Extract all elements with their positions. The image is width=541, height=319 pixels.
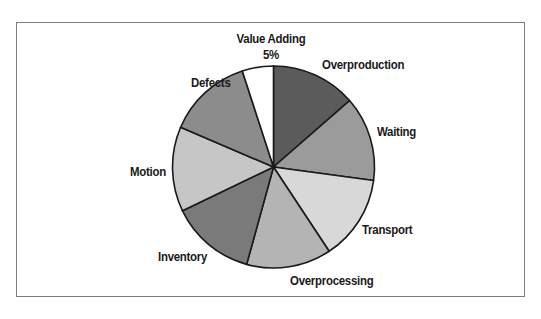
label-motion: Motion bbox=[130, 164, 166, 179]
pie-slices bbox=[173, 66, 375, 268]
label-inventory: Inventory bbox=[158, 249, 207, 264]
label-overproduction: Overproduction bbox=[322, 57, 404, 72]
label-value-adding-percent: 5% bbox=[227, 47, 315, 62]
label-defects: Defects bbox=[191, 75, 230, 90]
label-transport: Transport bbox=[362, 222, 412, 237]
label-value-adding: Value Adding 5% bbox=[227, 31, 315, 62]
label-waiting: Waiting bbox=[377, 124, 416, 139]
label-overprocessing: Overprocessing bbox=[290, 273, 373, 288]
label-value-adding-name: Value Adding bbox=[227, 31, 315, 46]
